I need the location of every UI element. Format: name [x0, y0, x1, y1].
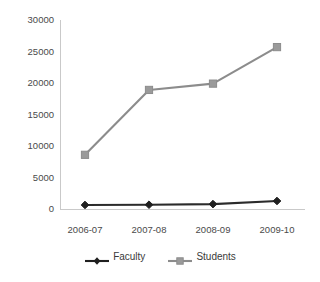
y-tick-label: 15000	[28, 109, 54, 120]
y-axis-tick-labels: 30000 25000 20000 15000 10000 5000 0	[28, 14, 54, 214]
legend-entry-faculty[interactable]: Faculty	[84, 252, 145, 262]
plot-area: 30000 25000 20000 15000 10000 5000 0 200…	[0, 0, 320, 246]
y-tick-label: 10000	[28, 140, 54, 151]
y-tick-label: 20000	[28, 77, 54, 88]
line-chart-figure: 30000 25000 20000 15000 10000 5000 0 200…	[0, 0, 320, 282]
data-point-students	[209, 80, 216, 87]
legend-marker-diamond-icon	[84, 252, 110, 262]
x-axis-tick-labels: 2006-07 2007-08 2008-09 2009-10	[68, 224, 295, 235]
data-point-faculty	[81, 201, 89, 209]
series-line-faculty	[85, 201, 277, 205]
chart-legend: Faculty Students	[0, 246, 320, 268]
page-bleed-text	[4, 272, 7, 279]
x-tick-label: 2009-10	[260, 224, 295, 235]
data-point-students	[145, 86, 152, 93]
series-line-students	[85, 47, 277, 155]
data-point-students	[273, 43, 280, 50]
legend-entry-students[interactable]: Students	[167, 252, 235, 262]
y-tick-label: 0	[49, 203, 54, 214]
data-point-students	[81, 151, 88, 158]
y-tick-label: 30000	[28, 14, 54, 25]
legend-label-faculty: Faculty	[113, 252, 145, 262]
x-tick-label: 2006-07	[68, 224, 103, 235]
y-tick-label: 25000	[28, 46, 54, 57]
y-tick-label: 5000	[33, 172, 54, 183]
page-bleed-text-row	[0, 272, 320, 282]
data-point-faculty	[209, 200, 217, 208]
x-tick-label: 2007-08	[132, 224, 167, 235]
data-point-faculty	[145, 201, 153, 209]
legend-marker-square-icon	[167, 252, 193, 262]
data-point-faculty	[273, 197, 281, 205]
x-tick-label: 2008-09	[196, 224, 231, 235]
legend-label-students: Students	[196, 252, 235, 262]
series-markers-students	[81, 43, 280, 158]
